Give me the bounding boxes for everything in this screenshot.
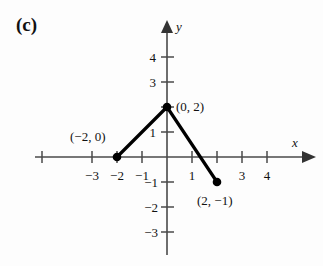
point-marker-right-endpoint <box>213 178 222 187</box>
coordinate-plot: y x −3 −2 −1 1 3 4 4 3 1 −1 −2 −3 <box>0 0 323 266</box>
y-axis-label: y <box>174 19 182 34</box>
point-label-vertex: (0, 2) <box>176 99 204 114</box>
x-tick-label-4: 4 <box>264 168 271 183</box>
point-label-right-endpoint: (2, −1) <box>197 193 233 208</box>
x-tick-label-3: 3 <box>239 168 246 183</box>
x-axis-label: x <box>291 135 298 150</box>
x-tick-label-minus2: −2 <box>110 168 124 183</box>
y-tick-label-minus1: −1 <box>144 175 158 190</box>
point-marker-vertex <box>163 103 172 112</box>
x-tick-label-1: 1 <box>189 168 196 183</box>
y-tick-label-4: 4 <box>150 50 157 65</box>
y-tick-label-minus3: −3 <box>144 225 158 240</box>
y-tick-label-minus2: −2 <box>144 200 158 215</box>
figure-panel: (c) y x −3 −2 −1 1 3 4 <box>0 0 323 266</box>
y-tick-label-1: 1 <box>150 125 157 140</box>
x-axis-arrow-icon <box>302 151 316 163</box>
point-marker-left-endpoint <box>113 153 122 162</box>
y-tick-label-3: 3 <box>150 75 157 90</box>
y-axis-arrow-icon <box>161 20 173 33</box>
point-label-left-endpoint: (−2, 0) <box>70 129 106 144</box>
x-tick-label-minus3: −3 <box>85 168 99 183</box>
